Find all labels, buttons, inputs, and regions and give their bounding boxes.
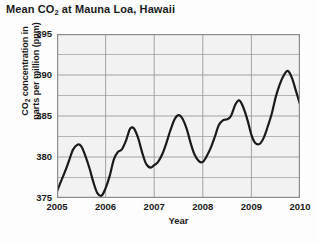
x-tick-label: 2010 <box>280 201 317 212</box>
chart-figure: Mean CO2 at Mauna Loa, Hawaii CO2 concen… <box>0 0 317 244</box>
y-tick-label: 380 <box>0 151 52 162</box>
y-tick-label: 390 <box>0 69 52 80</box>
x-tick-label: 2009 <box>231 201 271 212</box>
plot-area <box>57 34 300 198</box>
co2-line-series <box>57 71 300 196</box>
y-tick-label: 385 <box>0 110 52 121</box>
chart-title-subscript: 2 <box>54 8 58 17</box>
x-tick-label: 2007 <box>134 201 174 212</box>
x-tick-label: 2005 <box>37 201 77 212</box>
x-axis-title: Year <box>57 215 300 226</box>
chart-title-suffix: at Mauna Loa, Hawaii <box>59 3 175 15</box>
chart-plot-svg <box>57 34 300 198</box>
x-tick-label: 2008 <box>183 201 223 212</box>
x-tick-label: 2006 <box>86 201 126 212</box>
y-axis-title-subscript: 2 <box>24 99 31 103</box>
y-tick-label: 395 <box>0 28 52 39</box>
